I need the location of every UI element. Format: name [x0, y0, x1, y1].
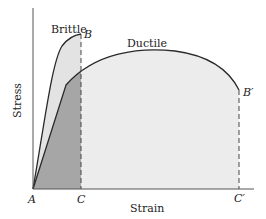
x-axis-label: Strain [130, 202, 164, 215]
ductile-label: Ductile [127, 37, 167, 50]
point-b-label: B [83, 28, 92, 41]
y-axis-label: Stress [11, 83, 24, 118]
point-c-prime-label: C′ [234, 192, 245, 205]
point-a-label: A [27, 193, 36, 206]
stress-strain-diagram: Brittle B Ductile B′ A C C′ Strain Stres… [0, 0, 266, 219]
point-c-label: C [77, 193, 86, 206]
point-b-prime-label: B′ [242, 86, 254, 99]
brittle-label: Brittle [51, 23, 87, 36]
